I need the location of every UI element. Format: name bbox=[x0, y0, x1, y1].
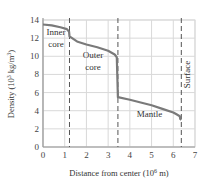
x-tick-label: 7 bbox=[193, 150, 198, 160]
x-tick-label: 6 bbox=[171, 150, 176, 160]
y-tick-label: 8 bbox=[35, 69, 40, 79]
region-label: Outer bbox=[83, 50, 104, 60]
y-tick-label: 2 bbox=[35, 124, 40, 134]
y-axis-ticks: 02468101214 bbox=[30, 15, 40, 152]
region-label: core bbox=[48, 39, 64, 49]
x-tick-label: 1 bbox=[62, 150, 67, 160]
region-label: core bbox=[85, 62, 101, 72]
y-tick-label: 0 bbox=[35, 142, 40, 152]
x-axis-label: Distance from center (106 m) bbox=[69, 168, 168, 178]
region-label: Inner bbox=[47, 27, 66, 37]
y-tick-label: 10 bbox=[30, 51, 40, 61]
y-tick-label: 14 bbox=[30, 15, 40, 25]
x-tick-label: 2 bbox=[84, 150, 89, 160]
region-label: Surface bbox=[182, 61, 192, 88]
y-tick-label: 12 bbox=[30, 33, 39, 43]
x-tick-label: 3 bbox=[106, 150, 111, 160]
region-label: Mantle bbox=[137, 109, 163, 119]
y-axis-label: Density (103 kg/m3) bbox=[6, 50, 16, 119]
density-chart: 02468101214 01234567 InnercoreOutercoreM… bbox=[0, 0, 208, 183]
grid bbox=[43, 18, 195, 147]
x-tick-label: 4 bbox=[128, 150, 133, 160]
x-axis-ticks: 01234567 bbox=[41, 150, 198, 160]
y-tick-label: 4 bbox=[35, 106, 40, 116]
y-tick-label: 6 bbox=[35, 88, 40, 98]
x-tick-label: 0 bbox=[41, 150, 46, 160]
x-tick-label: 5 bbox=[149, 150, 154, 160]
